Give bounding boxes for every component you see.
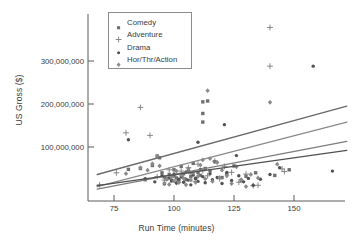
data-point — [205, 88, 209, 93]
series-drama — [127, 64, 334, 187]
data-point — [201, 100, 204, 103]
data-point — [288, 168, 291, 171]
data-point — [267, 25, 273, 31]
legend: Comedy Adventure Drama Hor/Thr/Action — [108, 12, 192, 69]
data-point — [145, 168, 149, 173]
data-point — [189, 183, 192, 186]
x-axis-title: Run Time (minutes) — [0, 223, 353, 233]
x-tick-label: 100 — [154, 204, 194, 213]
data-point — [196, 141, 199, 144]
square-marker-icon — [114, 18, 123, 27]
data-point — [243, 171, 249, 177]
data-point — [127, 138, 130, 141]
data-point — [229, 181, 233, 186]
x-axis-ticks — [114, 195, 294, 201]
data-point — [198, 163, 202, 168]
data-point — [268, 100, 272, 105]
data-point — [235, 154, 238, 157]
data-point — [278, 166, 281, 169]
data-point — [147, 132, 153, 138]
data-point — [124, 171, 128, 176]
legend-label-adventure: Adventure — [127, 30, 163, 39]
legend-label-comedy: Comedy — [127, 18, 156, 27]
data-point — [237, 174, 240, 177]
data-point — [138, 105, 144, 111]
data-point — [254, 171, 257, 174]
diamond-marker-icon — [114, 55, 123, 64]
data-point — [275, 162, 279, 167]
legend-item: Adventure — [114, 29, 191, 42]
scatter-chart: US Gross ($) Run Time (minutes) 100,000,… — [0, 0, 353, 245]
trendline-comedy — [97, 106, 347, 174]
legend-label-horthraction: Hor/Thr/Action — [127, 55, 177, 64]
data-point — [249, 172, 253, 177]
data-point — [189, 178, 193, 183]
data-point — [204, 181, 207, 184]
data-point — [182, 181, 185, 184]
data-point — [252, 184, 255, 187]
data-point — [229, 169, 235, 175]
data-point — [331, 169, 334, 172]
legend-item: Comedy — [114, 16, 191, 29]
y-tick-label: 300,000,000 — [0, 57, 84, 66]
y-tick-label: 100,000,000 — [0, 143, 84, 152]
data-point — [201, 120, 204, 123]
data-point — [268, 173, 271, 176]
data-point — [220, 182, 223, 185]
y-tick-label: 200,000,000 — [0, 100, 84, 109]
data-point — [153, 180, 156, 183]
y-axis-ticks — [88, 61, 94, 147]
legend-label-drama: Drama — [127, 43, 150, 52]
data-point — [255, 182, 261, 188]
data-point — [157, 164, 161, 169]
trendline-drama — [97, 150, 347, 185]
x-tick-label: 125 — [214, 204, 254, 213]
data-point — [267, 63, 273, 69]
plus-marker-icon — [114, 30, 123, 39]
dot-marker-icon — [114, 43, 123, 52]
data-point — [162, 181, 166, 186]
data-point — [114, 170, 120, 176]
data-point — [201, 112, 204, 115]
data-point — [167, 182, 171, 187]
data-point — [244, 184, 248, 189]
data-point — [208, 172, 211, 175]
data-point — [223, 123, 226, 126]
data-point — [160, 171, 163, 174]
data-point — [247, 177, 250, 180]
legend-item: Hor/Thr/Action — [114, 54, 191, 67]
data-point — [206, 99, 209, 102]
data-point — [273, 174, 276, 177]
data-point — [123, 130, 129, 136]
x-tick-label: 75 — [94, 204, 134, 213]
data-point — [127, 168, 130, 171]
x-tick-label: 150 — [274, 204, 314, 213]
data-point — [312, 64, 315, 67]
legend-item: Drama — [114, 41, 191, 54]
